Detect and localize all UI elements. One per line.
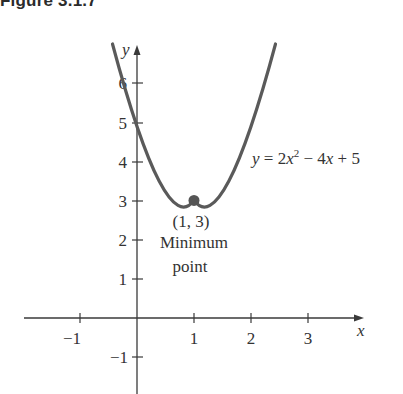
y-tick-label: −1: [110, 348, 128, 367]
eq-tail: + 5: [333, 149, 360, 168]
x-tick-label: −1: [63, 329, 81, 348]
minimum-point-label-2: point: [173, 257, 208, 276]
x-axis: −1 1 2 3 x: [24, 313, 365, 348]
y-tick-label: 2: [119, 231, 128, 250]
y-tick-label: 3: [119, 192, 128, 211]
y-tick-label: 5: [119, 114, 128, 133]
y-axis-label: y: [120, 40, 130, 59]
minimum-point-marker: [189, 195, 200, 206]
chart-canvas: −1 1 2 3 x −1 1 2 3 4 5 6 y (1, 3) Minim…: [0, 0, 403, 394]
eq-minus: − 4: [299, 149, 326, 168]
x-tick-label: 3: [304, 329, 313, 348]
equation-label: y = 2x2 − 4x + 5: [250, 147, 360, 168]
y-axis-arrow-icon: [134, 45, 141, 55]
eq-coef: = 2: [260, 149, 287, 168]
x-tick-label: 1: [190, 329, 199, 348]
x-axis-label: x: [356, 321, 365, 340]
minimum-point-coords: (1, 3): [173, 212, 210, 231]
y-tick-label: 1: [119, 270, 128, 289]
minimum-point-label: Minimum: [160, 233, 228, 252]
x-tick-label: 2: [247, 329, 256, 348]
eq-y: y: [250, 149, 260, 168]
y-tick-label: 4: [119, 153, 128, 172]
